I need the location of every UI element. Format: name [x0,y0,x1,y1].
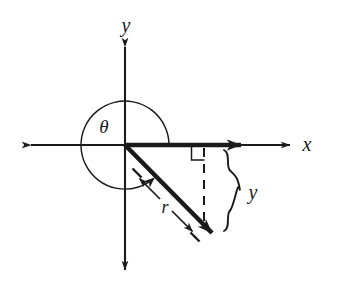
x-axis-label: x [302,133,312,155]
figure-background [0,0,337,298]
y-axis-label: y [120,14,131,37]
vertical-leg-label-y: y [247,181,258,204]
trig-angle-figure: x y θ r y [0,0,337,298]
radius-label-r: r [161,197,169,217]
angle-label-theta: θ [99,116,108,137]
